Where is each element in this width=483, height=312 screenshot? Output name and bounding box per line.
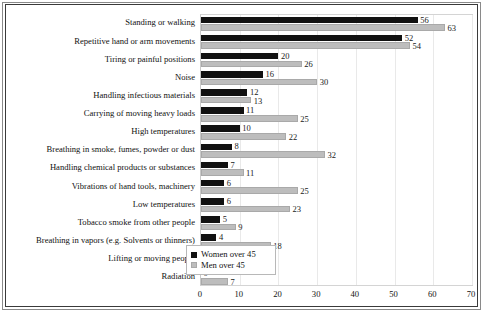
bar-value-men: 13 xyxy=(254,97,263,106)
bar-value-men: 7 xyxy=(231,278,235,287)
category-label: Handling chemical products or substances xyxy=(50,159,195,176)
bar-women xyxy=(201,35,402,42)
bar-value-men: 11 xyxy=(246,169,254,178)
bar-women xyxy=(201,89,247,96)
x-axis: 010203040506070 xyxy=(200,287,473,303)
legend-item: Men over 45 xyxy=(191,260,271,270)
bar-row: 2026 xyxy=(201,51,472,68)
bar-value-men: 22 xyxy=(289,133,298,142)
bar-men xyxy=(201,24,445,31)
bar-men xyxy=(201,206,290,213)
bar-row: 59 xyxy=(201,214,472,231)
bar-women xyxy=(201,198,224,205)
category-label: Noise xyxy=(175,68,195,85)
bar-row: 623 xyxy=(201,196,472,213)
bar-men xyxy=(201,169,244,176)
bar-value-women: 11 xyxy=(246,106,254,115)
bar-value-men: 25 xyxy=(300,187,309,196)
bar-value-women: 56 xyxy=(420,16,429,25)
bar-men xyxy=(201,42,410,49)
bar-value-women: 6 xyxy=(227,179,231,188)
bar-men xyxy=(201,61,302,68)
bar-men xyxy=(201,79,317,86)
bar-women xyxy=(201,17,418,24)
bar-row: 1125 xyxy=(201,106,472,123)
bar-value-men: 54 xyxy=(413,42,422,51)
bar-value-women: 16 xyxy=(265,70,274,79)
bar-women xyxy=(201,53,278,60)
category-label: Handling infectious materials xyxy=(93,87,195,104)
bar-women xyxy=(201,71,263,78)
bar-value-men: 23 xyxy=(293,205,302,214)
bar-row: 1630 xyxy=(201,69,472,86)
bar-value-women: 4 xyxy=(219,233,223,242)
category-label: Lifting or moving people xyxy=(108,250,195,267)
bar-row: 832 xyxy=(201,142,472,159)
bar-value-women: 8 xyxy=(234,142,238,151)
bar-value-men: 25 xyxy=(300,115,309,124)
bar-women xyxy=(201,216,220,223)
category-axis: Standing or walkingRepetitive hand or ar… xyxy=(14,14,198,286)
category-label: Breathing in vapors (e.g. Solvents or th… xyxy=(36,232,195,249)
x-tick-label: 40 xyxy=(351,290,360,299)
bar-value-men: 30 xyxy=(320,78,329,87)
bar-value-men: 63 xyxy=(447,24,456,33)
bar-value-women: 20 xyxy=(281,52,290,61)
bar-men xyxy=(201,278,228,285)
bar-women xyxy=(201,144,232,151)
inner-frame: Standing or walkingRepetitive hand or ar… xyxy=(5,4,478,307)
category-label: Breathing in smoke, fumes, powder or dus… xyxy=(47,141,195,158)
bar-men xyxy=(201,224,236,231)
category-label: Low temperatures xyxy=(133,195,195,212)
x-tick-label: 30 xyxy=(312,290,321,299)
bar-row: 625 xyxy=(201,178,472,195)
x-tick-label: 50 xyxy=(389,290,398,299)
category-label: High temperatures xyxy=(131,123,195,140)
bar-women xyxy=(201,234,216,241)
bar-row: 1213 xyxy=(201,88,472,105)
bar-value-men: 32 xyxy=(327,151,336,160)
category-label: Carrying of moving heavy loads xyxy=(84,105,195,122)
bar-women xyxy=(201,162,228,169)
bar-men xyxy=(201,151,325,158)
bar-women xyxy=(201,125,240,132)
legend-label: Men over 45 xyxy=(201,261,245,270)
bar-row: 711 xyxy=(201,160,472,177)
legend-item: Women over 45 xyxy=(191,250,271,260)
category-label: Vibrations of hand tools, machinery xyxy=(72,177,195,194)
bar-value-women: 10 xyxy=(242,124,251,133)
chart-screenshot: Standing or walkingRepetitive hand or ar… xyxy=(0,0,483,312)
bar-men xyxy=(201,115,298,122)
x-tick-label: 60 xyxy=(428,290,437,299)
bar-value-men: 9 xyxy=(238,223,242,232)
x-tick-label: 10 xyxy=(234,290,243,299)
chart-area: Standing or walkingRepetitive hand or ar… xyxy=(14,13,469,298)
bar-row: 1022 xyxy=(201,124,472,141)
bar-men xyxy=(201,133,286,140)
bar-value-women: 7 xyxy=(231,161,235,170)
bar-value-women: 5 xyxy=(223,215,227,224)
bar-row: 5254 xyxy=(201,33,472,50)
chart-legend: Women over 45Men over 45 xyxy=(186,245,276,275)
x-tick-label: 70 xyxy=(467,290,476,299)
category-label: Standing or walking xyxy=(125,14,195,31)
category-label: Tobacco smoke from other people xyxy=(78,213,195,230)
bar-men xyxy=(201,187,298,194)
category-label: Repetitive hand or arm movements xyxy=(74,32,195,49)
x-tick-label: 20 xyxy=(273,290,282,299)
bar-row: 5663 xyxy=(201,15,472,32)
category-label: Tiring or painful positions xyxy=(105,50,195,67)
x-tick-label: 0 xyxy=(198,290,202,299)
bar-value-women: 6 xyxy=(227,197,231,206)
legend-swatch-men xyxy=(191,262,197,268)
legend-swatch-women xyxy=(191,252,197,258)
bar-value-men: 26 xyxy=(304,60,313,69)
bar-men xyxy=(201,97,251,104)
bar-women xyxy=(201,180,224,187)
gridline xyxy=(472,15,473,285)
bar-women xyxy=(201,107,244,114)
legend-label: Women over 45 xyxy=(201,250,256,259)
